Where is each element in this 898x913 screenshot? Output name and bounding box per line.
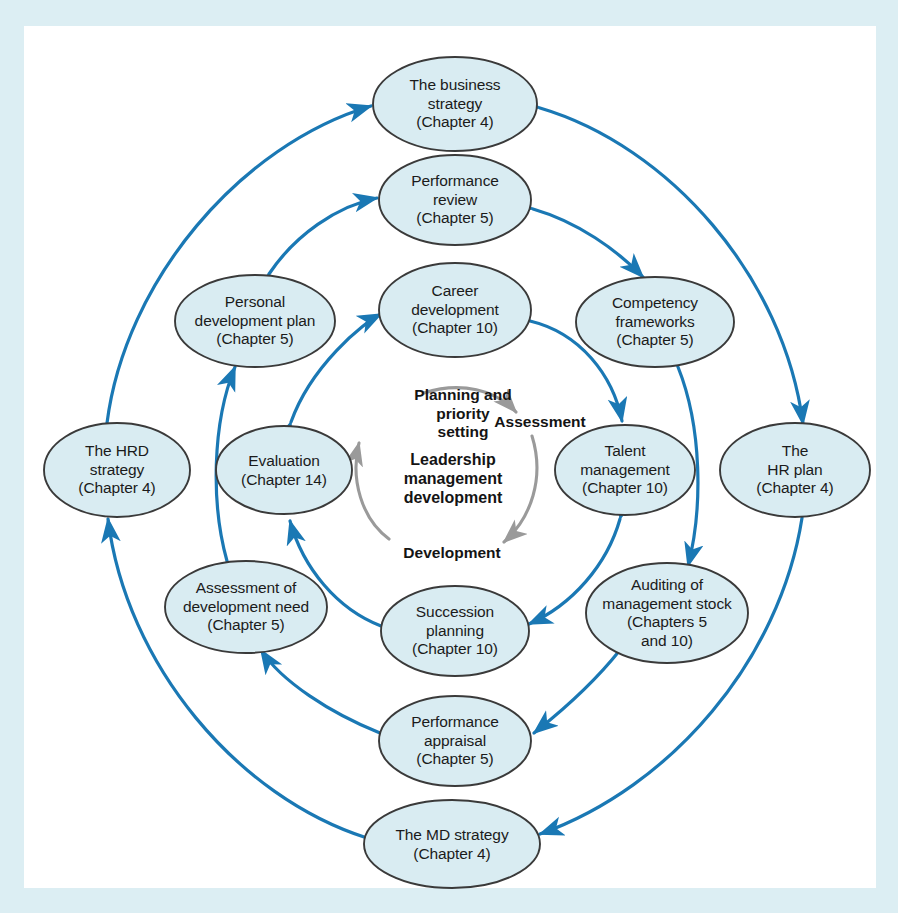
- node-evaluation[interactable]: [216, 426, 352, 514]
- cycle-label-assessment: Assessment: [494, 413, 585, 432]
- page-background: Careerdevelopment(Chapter 10)Talentmanag…: [0, 0, 898, 913]
- node-auditing-of-management-stock[interactable]: [586, 563, 748, 663]
- node-performance-appraisal[interactable]: [379, 696, 531, 786]
- cycle-arrow-development-to-planning: [356, 443, 389, 539]
- arrow-performance-appraisal-to-assessment-of-need: [261, 650, 380, 733]
- arrow-performance-review-to-competency-frameworks: [533, 209, 643, 277]
- arrow-business-strategy-to-hr-plan: [540, 108, 803, 424]
- node-career-development[interactable]: [379, 263, 531, 357]
- cycle-center-label: Leadershipmanagementdevelopment: [404, 450, 503, 507]
- node-personal-development-plan[interactable]: [175, 275, 335, 367]
- arrow-hrd-strategy-to-business-strategy: [107, 106, 371, 423]
- arrow-personal-development-plan-to-performance-review: [269, 198, 377, 274]
- node-the-business-strategy[interactable]: [373, 57, 537, 151]
- node-performance-review[interactable]: [379, 155, 531, 245]
- node-assessment-of-development-need[interactable]: [165, 561, 327, 653]
- node-the-hr-plan[interactable]: [720, 423, 870, 517]
- arrow-auditing-to-performance-appraisal: [534, 650, 620, 733]
- node-the-md-strategy[interactable]: [364, 800, 540, 888]
- node-talent-management[interactable]: [555, 425, 695, 515]
- node-the-hrd-strategy[interactable]: [44, 423, 190, 517]
- cycle-arrow-assessment-to-development: [504, 436, 537, 542]
- cycle-label-development: Development: [403, 544, 500, 563]
- node-competency-frameworks[interactable]: [576, 277, 734, 367]
- node-succession-planning[interactable]: [381, 586, 529, 676]
